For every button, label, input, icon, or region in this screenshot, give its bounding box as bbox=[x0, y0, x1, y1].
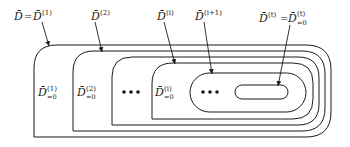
svg-text:D̄: D̄ bbox=[154, 86, 164, 99]
svg-text:D̄: D̄ bbox=[76, 86, 86, 99]
arrow-di bbox=[164, 22, 175, 64]
svg-text:(t): (t) bbox=[268, 11, 277, 19]
svg-text:D̄: D̄ bbox=[287, 12, 297, 25]
ellipsis-1 bbox=[122, 90, 140, 94]
svg-text:(2): (2) bbox=[100, 9, 110, 17]
svg-text:(t): (t) bbox=[297, 10, 306, 18]
svg-text:D̄: D̄ bbox=[156, 10, 166, 23]
svg-text:(i): (i) bbox=[166, 9, 174, 17]
svg-text:(1): (1) bbox=[47, 85, 57, 93]
svg-text:D̄: D̄ bbox=[258, 12, 268, 25]
svg-text:(i+1): (i+1) bbox=[204, 9, 222, 17]
svg-text:(i): (i) bbox=[164, 85, 172, 93]
label-di: D̄ (i) bbox=[156, 9, 174, 23]
region-dt bbox=[235, 85, 288, 99]
label-d-equals-d1: D̄ = D̄ (1) bbox=[13, 9, 52, 23]
svg-text:D̄: D̄ bbox=[90, 10, 100, 23]
arrow-d2 bbox=[95, 22, 102, 52]
svg-text:=0: =0 bbox=[86, 93, 96, 101]
arrow-d1 bbox=[42, 22, 49, 46]
region-di-plus-1 bbox=[190, 73, 306, 112]
label-d2-zero: D̄ (2) =0 bbox=[76, 85, 96, 101]
label-di-plus-1: D̄ (i+1) bbox=[194, 9, 222, 23]
region-di bbox=[152, 63, 313, 119]
svg-text:=0: =0 bbox=[164, 93, 174, 101]
label-dt-equals-dt0: D̄ (t) = D̄ (t) =0 bbox=[258, 10, 307, 27]
label-di-zero: D̄ (i) =0 bbox=[154, 85, 174, 101]
svg-text:=0: =0 bbox=[47, 93, 57, 101]
svg-text:=: = bbox=[24, 11, 32, 22]
nested-sets-diagram: D̄ = D̄ (1) D̄ (2) D̄ (i) D̄ (i+1) D̄ (t… bbox=[0, 0, 350, 147]
svg-text:D̄: D̄ bbox=[32, 10, 42, 23]
svg-text:(2): (2) bbox=[86, 85, 96, 93]
ellipsis-2 bbox=[201, 90, 219, 94]
label-d1-zero: D̄ (1) =0 bbox=[37, 85, 57, 101]
svg-text:(1): (1) bbox=[42, 9, 52, 17]
svg-text:=0: =0 bbox=[297, 19, 307, 27]
svg-text:D̄: D̄ bbox=[37, 86, 47, 99]
svg-text:D̄: D̄ bbox=[194, 10, 204, 23]
label-d2: D̄ (2) bbox=[90, 9, 110, 23]
arrow-dt bbox=[278, 25, 290, 86]
svg-text:D̄: D̄ bbox=[13, 10, 23, 23]
arrow-di-plus-1 bbox=[204, 22, 212, 74]
